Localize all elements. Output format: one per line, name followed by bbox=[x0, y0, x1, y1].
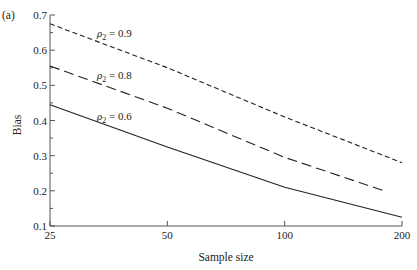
series-label-3: ρ2 = 0.6 bbox=[96, 110, 132, 125]
bias-vs-sample-size-chart: (a) 0.10.20.30.40.50.60.72550100200 ρ2 =… bbox=[0, 0, 417, 270]
x-tick-label: 200 bbox=[394, 229, 411, 241]
series-annotations: ρ2 = 0.9ρ2 = 0.8ρ2 = 0.6 bbox=[96, 27, 132, 125]
y-tick-label: 0.7 bbox=[33, 9, 47, 21]
y-tick-label: 0.4 bbox=[33, 115, 47, 127]
rho-value: = 0.6 bbox=[106, 110, 132, 122]
rho-value: = 0.9 bbox=[106, 27, 132, 39]
series-label-1: ρ2 = 0.9 bbox=[96, 27, 132, 42]
axes: 0.10.20.30.40.50.60.72550100200 bbox=[33, 9, 411, 241]
series-line-1 bbox=[50, 24, 402, 163]
y-axis-title: Bias bbox=[11, 114, 23, 135]
y-tick-label: 0.6 bbox=[33, 44, 47, 56]
series-label-2: ρ2 = 0.8 bbox=[96, 69, 132, 84]
panel-label: (a) bbox=[2, 9, 15, 22]
x-axis-title: Sample size bbox=[198, 251, 253, 264]
series-line-2 bbox=[50, 66, 384, 191]
y-tick-label: 0.2 bbox=[33, 185, 47, 197]
y-tick-label: 0.3 bbox=[33, 150, 47, 162]
x-tick-label: 50 bbox=[162, 229, 174, 241]
y-tick-label: 0.5 bbox=[33, 79, 47, 91]
x-tick-label: 25 bbox=[45, 229, 57, 241]
rho-value: = 0.8 bbox=[106, 69, 132, 81]
x-tick-label: 100 bbox=[276, 229, 293, 241]
